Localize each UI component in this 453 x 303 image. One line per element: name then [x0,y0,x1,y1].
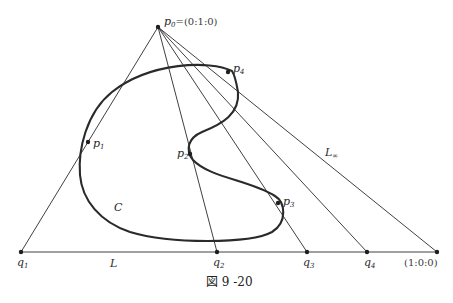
line-p0-q3 [158,27,307,252]
line-L-infinity [158,27,437,252]
figure-caption: 図 9 -20 [206,275,253,289]
label-line-L: L [109,257,117,270]
line-p0-q2 [158,27,217,252]
line-p0-q1 [21,27,158,252]
point-q1 [19,250,23,254]
label-p3: p3 [283,195,295,209]
point-infinity [435,250,439,254]
label-L-infinity: L∞ [324,146,338,160]
label-p2: p2 [177,147,189,161]
point-q3 [305,250,309,254]
label-q4: q4 [364,256,376,270]
label-point-infinity: (1:0:0) [404,257,438,268]
line-p0-q4 [158,27,367,252]
label-q3: q3 [303,256,315,270]
projective-tangent-lines-diagram: p0=(0:1:0) p1 p2 p3 p4 C L∞ L q1 q2 q3 q… [0,0,453,303]
point-q2 [215,250,219,254]
label-q2: q2 [213,256,225,270]
label-p0: p0=(0:1:0) [164,15,218,29]
point-p3 [276,201,280,205]
label-curve-C: C [114,201,123,214]
point-q4 [365,250,369,254]
label-p1: p1 [93,137,105,151]
point-p1 [86,140,90,144]
point-p0 [156,25,160,29]
label-p4: p4 [233,62,245,76]
label-q1: q1 [17,256,29,270]
point-p4 [226,70,230,74]
